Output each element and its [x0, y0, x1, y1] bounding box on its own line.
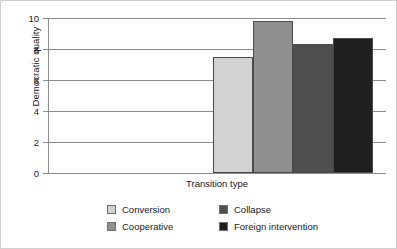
bar-collapse: [293, 44, 333, 173]
legend-label: Collapse: [234, 204, 271, 215]
legend-swatch-icon: [107, 222, 116, 231]
gridline: [48, 173, 386, 174]
legend-swatch-icon: [219, 205, 228, 214]
plot-area: [48, 18, 386, 173]
legend-swatch-icon: [107, 205, 116, 214]
y-axis-tick-label: 2: [13, 137, 39, 148]
bar-chart-figure: Democratic quality 1086420 Transition ty…: [0, 0, 397, 249]
y-axis-tick-mark: [43, 80, 48, 81]
legend-label: Conversion: [122, 204, 170, 215]
legend-entry[interactable]: Collapse: [219, 201, 357, 218]
legend-swatch-icon: [219, 222, 228, 231]
bar-cooperative: [253, 21, 293, 173]
y-axis-tick-mark: [43, 111, 48, 112]
legend-label: Cooperative: [122, 221, 173, 232]
x-axis-title: Transition type: [48, 178, 386, 189]
legend: ConversionCollapseCooperativeForeign int…: [107, 201, 357, 235]
y-axis-tick-label: 0: [13, 168, 39, 179]
legend-entry[interactable]: Conversion: [107, 201, 219, 218]
y-axis-tick-label: 8: [13, 44, 39, 55]
bars-group: [48, 18, 386, 173]
legend-entry[interactable]: Foreign intervention: [219, 218, 357, 235]
bar-foreign-intervention: [333, 38, 373, 173]
y-axis-tick-label: 10: [13, 13, 39, 24]
y-axis-tick-mark: [43, 49, 48, 50]
y-axis-tick-mark: [43, 142, 48, 143]
legend-label: Foreign intervention: [234, 221, 318, 232]
y-axis-tick-label: 6: [13, 75, 39, 86]
legend-entry[interactable]: Cooperative: [107, 218, 219, 235]
bar-conversion: [213, 57, 253, 173]
y-axis-tick-mark: [43, 173, 48, 174]
y-axis-tick-labels: 1086420: [11, 1, 39, 249]
y-axis-tick-mark: [43, 18, 48, 19]
y-axis-tick-label: 4: [13, 106, 39, 117]
